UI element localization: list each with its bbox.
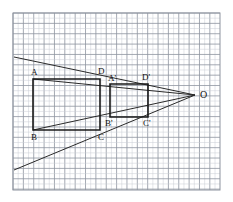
grid-layer	[13, 13, 220, 190]
vertex-label-a-prime: A'	[108, 73, 116, 83]
diagram-canvas: ABCDA'B'C'D'O	[0, 0, 233, 202]
vertex-label-d: D	[98, 66, 105, 76]
vertex-label-d-prime: D'	[142, 72, 150, 82]
center-label-o: O	[200, 89, 207, 100]
vertex-label-b-prime: B'	[105, 118, 113, 128]
vertex-label-b: B	[31, 132, 37, 142]
vertex-label-c-prime: C'	[143, 118, 151, 128]
ray-through-a	[14, 57, 195, 95]
vertex-label-c: C	[98, 132, 104, 142]
ray-through-c	[33, 95, 195, 130]
vertex-label-a: A	[31, 67, 38, 77]
geometry-figure: ABCDA'B'C'D'O	[0, 0, 233, 202]
